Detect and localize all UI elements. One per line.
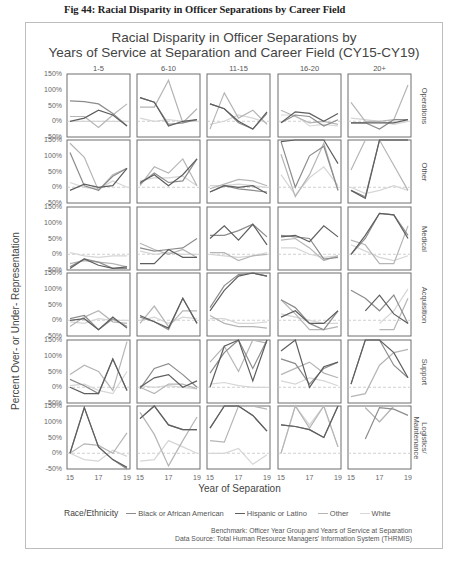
- chart-panel: [67, 207, 130, 270]
- chart-panel: [278, 340, 341, 403]
- legend-swatch-icon: [235, 513, 245, 514]
- chart-panel: [348, 140, 411, 203]
- chart-panel: [348, 207, 411, 270]
- chart-panel: [137, 406, 200, 469]
- chart-panel: [137, 340, 200, 403]
- chart-panel: [137, 140, 200, 203]
- y-axis-label: Percent Over- or Under- Representation: [10, 150, 21, 410]
- chart-panel: [278, 74, 341, 137]
- x-axis-label: Year of Separation: [67, 483, 412, 494]
- chart-panel: [348, 74, 411, 137]
- legend-swatch-icon: [360, 513, 370, 514]
- chart-panel: [207, 207, 270, 270]
- chart-panel: [67, 140, 130, 203]
- legend-title: Race/Ethnicity: [64, 508, 118, 518]
- chart-panel: [348, 273, 411, 336]
- chart-panel: [278, 140, 341, 203]
- benchmark-note: Benchmark: Officer Year Group and Years …: [120, 527, 412, 534]
- legend-item-other: Other: [318, 509, 349, 518]
- chart-panel: [278, 207, 341, 270]
- legend-item-black: Black or African American: [126, 509, 223, 518]
- legend: Race/Ethnicity Black or African American…: [64, 508, 424, 518]
- data-source-note: Data Source: Total Human Resource Manage…: [120, 535, 412, 542]
- chart-panel: [348, 340, 411, 403]
- legend-swatch-icon: [318, 513, 328, 514]
- legend-item-white: White: [360, 509, 391, 518]
- chart-panel: [207, 74, 270, 137]
- chart-panel: [67, 74, 130, 137]
- chart-panel: [137, 273, 200, 336]
- chart-panel: [207, 340, 270, 403]
- legend-item-hispanic: Hispanic or Latino: [235, 509, 307, 518]
- chart-panel: [137, 207, 200, 270]
- chart-panel: [67, 406, 130, 469]
- chart-panel: [207, 273, 270, 336]
- chart-panel: [67, 273, 130, 336]
- chart-panel: [137, 74, 200, 137]
- legend-swatch-icon: [126, 513, 136, 514]
- chart-panel: [278, 273, 341, 336]
- chart-panel: [207, 140, 270, 203]
- chart-panel: [278, 406, 341, 469]
- chart-panel: [207, 406, 270, 469]
- chart-panel: [348, 406, 411, 469]
- chart-panel: [67, 340, 130, 403]
